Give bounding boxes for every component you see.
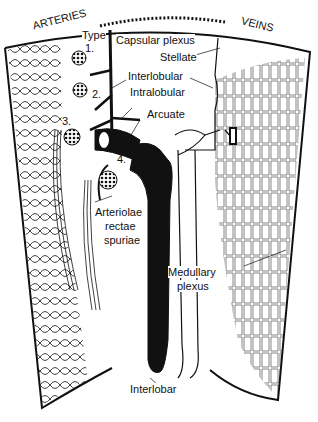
- label-interlobular: Interlobular: [128, 70, 183, 82]
- diagram-artwork: [0, 0, 318, 422]
- label-type-2: 2.: [92, 88, 101, 100]
- label-capsular-plexus: Capsular plexus: [116, 34, 195, 46]
- venous-medullary-mesh: [215, 58, 305, 398]
- label-medullary-plexus-2: plexus: [177, 280, 209, 292]
- label-arteriolae-rectae-spuriae-2: rectae: [105, 220, 136, 232]
- label-type: Type: [82, 29, 106, 41]
- label-arcuate: Arcuate: [147, 108, 185, 120]
- label-arteriolae-rectae-spuriae-1: Arteriolae: [95, 206, 142, 218]
- label-type-4: 4.: [117, 153, 126, 165]
- glomerulus-type-3: [64, 129, 80, 145]
- label-type-3: 3.: [62, 115, 71, 127]
- label-interlobar: Interlobar: [130, 383, 176, 395]
- capsular-plexus: [100, 18, 225, 26]
- label-type-1: 1.: [85, 42, 94, 54]
- arcuate-vein-cross-section: [230, 128, 236, 144]
- glomerulus-type-4: [99, 171, 117, 189]
- glomerulus-type-1: [72, 51, 86, 65]
- glomerulus-type-2: [73, 83, 87, 97]
- label-arteriolae-rectae-spuriae-3: spuriae: [104, 234, 140, 246]
- label-intralobular: Intralobular: [130, 86, 185, 98]
- kidney-vasculature-diagram: ARTERIES VEINS Type 1. 2. 3. 4. Capsular…: [0, 0, 318, 422]
- label-medullary-plexus-1: Medullary: [168, 266, 216, 278]
- label-stellate: Stellate: [160, 51, 197, 63]
- arcuate-cross-section: [98, 131, 110, 149]
